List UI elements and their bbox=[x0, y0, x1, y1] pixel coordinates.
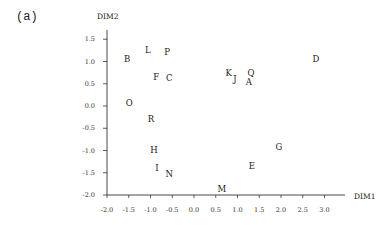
point-n: N bbox=[165, 169, 173, 179]
point-r: R bbox=[148, 114, 155, 124]
y-tick-label: -1.0 bbox=[82, 147, 95, 155]
point-j: J bbox=[232, 74, 237, 84]
point-k: K bbox=[226, 68, 233, 78]
y-tick-label: -1.5 bbox=[82, 169, 95, 177]
point-h: H bbox=[150, 145, 157, 155]
y-tick-label: 0.5 bbox=[85, 80, 95, 88]
y-tick-label: -0.5 bbox=[82, 124, 95, 132]
point-i: I bbox=[155, 163, 158, 173]
x-tick-label: 1.0 bbox=[232, 206, 242, 214]
y-tick-label: 1.5 bbox=[85, 35, 95, 43]
scatter-plot: 1.51.00.50.0-0.5-1.0-1.5-2.0-2.0-1.5-1.0… bbox=[0, 0, 390, 225]
data-points: ABCDEFGHIJKLMNOPQR bbox=[124, 45, 320, 194]
x-tick-label: 3.0 bbox=[319, 206, 329, 214]
y-tick-label: 0.0 bbox=[85, 102, 95, 110]
point-f: F bbox=[153, 72, 159, 82]
point-g: G bbox=[275, 142, 282, 152]
x-axis-title: DIM1 bbox=[354, 192, 375, 201]
point-a: A bbox=[245, 77, 253, 87]
point-m: M bbox=[217, 184, 226, 194]
x-tick-label: 2.0 bbox=[276, 206, 286, 214]
x-tick-label: -1.5 bbox=[122, 206, 135, 214]
x-tick-label: 1.5 bbox=[254, 206, 264, 214]
x-tick-label: 0.0 bbox=[189, 206, 199, 214]
point-d: D bbox=[312, 54, 319, 64]
axes: 1.51.00.50.0-0.5-1.0-1.5-2.0-2.0-1.5-1.0… bbox=[82, 12, 375, 214]
y-tick-label: -2.0 bbox=[82, 191, 95, 199]
point-q: Q bbox=[248, 68, 255, 78]
x-tick-label: -0.5 bbox=[166, 206, 179, 214]
x-tick-label: 2.5 bbox=[298, 206, 308, 214]
y-tick-label: 1.0 bbox=[85, 58, 95, 66]
x-tick-label: -2.0 bbox=[101, 206, 114, 214]
point-e: E bbox=[249, 161, 255, 171]
point-p: P bbox=[164, 47, 170, 57]
point-c: C bbox=[166, 73, 173, 83]
point-l: L bbox=[145, 45, 151, 55]
x-tick-label: -1.0 bbox=[144, 206, 157, 214]
point-o: O bbox=[126, 98, 133, 108]
x-tick-label: 0.5 bbox=[211, 206, 221, 214]
point-b: B bbox=[124, 54, 130, 64]
y-axis-title: DIM2 bbox=[97, 12, 119, 21]
